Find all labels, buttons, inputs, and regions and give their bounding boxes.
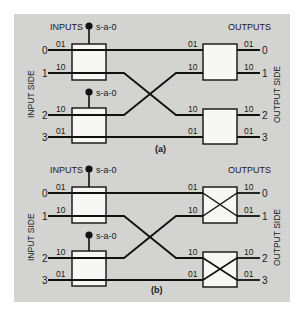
right-out-code: 10 — [244, 182, 254, 192]
input-port-2: 2 — [42, 110, 48, 121]
diagram-b: INPUTS OUTPUTS s-a-0 s-a-0 0 1 2 3 01 — [26, 165, 282, 295]
output-port-1: 1 — [262, 211, 268, 222]
wire-1 — [48, 216, 203, 258]
input-port-0: 0 — [42, 45, 48, 56]
caption-a: (a) — [155, 144, 166, 154]
right-out-code: 01 — [244, 39, 254, 49]
diagram-a: INPUTS OUTPUTS s-a-0 s-a-0 0 1 2 3 01 10… — [26, 22, 282, 154]
wire-2 — [48, 216, 203, 258]
left-code: 01 — [56, 182, 66, 192]
left-code: 10 — [56, 62, 66, 72]
fault-label: s-a-0 — [96, 231, 117, 241]
fault-dot-icon — [85, 22, 92, 29]
right-in-code: 10 — [188, 104, 198, 114]
right-out-code: 01 — [244, 205, 254, 215]
left-code: 10 — [56, 104, 66, 114]
right-in-code: 01 — [188, 182, 198, 192]
left-code: 01 — [56, 269, 66, 279]
outputs-label: OUTPUTS — [228, 165, 271, 175]
outputs-label: OUTPUTS — [228, 22, 271, 32]
right-out-code: 01 — [244, 269, 254, 279]
right-in-code: 10 — [188, 205, 198, 215]
right-in-code: 01 — [188, 269, 198, 279]
left-code: 01 — [56, 126, 66, 136]
right-in-code: 01 — [188, 126, 198, 136]
fault-dot-icon — [85, 165, 92, 172]
input-port-0: 0 — [42, 188, 48, 199]
right-in-code: 01 — [188, 39, 198, 49]
input-port-3: 3 — [42, 275, 48, 286]
fault-dot-icon — [85, 231, 92, 238]
inputs-label: INPUTS — [50, 22, 83, 32]
right-switch-1 — [203, 44, 237, 80]
left-code: 10 — [56, 205, 66, 215]
output-port-0: 0 — [262, 45, 268, 56]
right-out-code: 10 — [244, 247, 254, 257]
output-side-label: OUTPUT SIDE — [272, 66, 282, 123]
switching-network-diagram: INPUTS OUTPUTS s-a-0 s-a-0 0 1 2 3 01 10… — [0, 0, 301, 313]
output-port-3: 3 — [262, 132, 268, 143]
inputs-label: INPUTS — [50, 165, 83, 175]
right-in-code: 10 — [188, 247, 198, 257]
right-out-code: 10 — [244, 62, 254, 72]
right-switch-2 — [203, 109, 237, 144]
input-port-3: 3 — [42, 132, 48, 143]
output-side-label: OUTPUT SIDE — [272, 209, 282, 266]
input-port-1: 1 — [42, 211, 48, 222]
input-side-label: INPUT SIDE — [26, 213, 36, 261]
right-out-code: 01 — [244, 126, 254, 136]
output-port-2: 2 — [262, 110, 268, 121]
input-side-label: INPUT SIDE — [26, 70, 36, 118]
fault-label: s-a-0 — [96, 165, 117, 175]
output-port-2: 2 — [262, 253, 268, 264]
output-port-3: 3 — [262, 275, 268, 286]
fault-dot-icon — [85, 88, 92, 95]
right-in-code: 10 — [188, 62, 198, 72]
output-port-0: 0 — [262, 188, 268, 199]
input-port-2: 2 — [42, 253, 48, 264]
right-out-code: 10 — [244, 104, 254, 114]
fault-label: s-a-0 — [96, 88, 117, 98]
left-code: 01 — [56, 39, 66, 49]
caption-b: (b) — [151, 285, 163, 295]
output-port-1: 1 — [262, 68, 268, 79]
left-code: 10 — [56, 247, 66, 257]
fault-label: s-a-0 — [96, 22, 117, 32]
input-port-1: 1 — [42, 68, 48, 79]
